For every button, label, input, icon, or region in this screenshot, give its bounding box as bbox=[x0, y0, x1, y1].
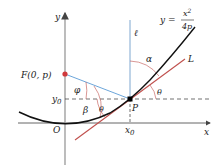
svg-text:y =: y = bbox=[159, 15, 176, 25]
phi-label: φ bbox=[74, 85, 81, 95]
theta-right-label: θ bbox=[157, 88, 162, 97]
parabola-equation: y = x2 4p bbox=[159, 7, 194, 31]
alpha-arc bbox=[130, 61, 159, 76]
phi-arc bbox=[86, 82, 87, 99]
focus-point bbox=[62, 71, 67, 76]
beta-label: β bbox=[82, 105, 88, 115]
origin-label: O bbox=[53, 125, 61, 135]
x0-label: x0 bbox=[125, 125, 135, 137]
svg-text:x2: x2 bbox=[183, 7, 192, 18]
svg-text:4p: 4p bbox=[181, 22, 192, 31]
focus-label: F(0, p) bbox=[20, 70, 52, 80]
ell-label: ℓ bbox=[134, 28, 138, 38]
parabola-diagram: y x O F(0, p) P y0 x0 ℓ L α θ φ β θ y = … bbox=[0, 0, 216, 168]
y-axis-label: y bbox=[54, 12, 61, 22]
point-P-label: P bbox=[131, 103, 139, 113]
alpha-label: α bbox=[146, 54, 152, 64]
x-axis-label: x bbox=[204, 127, 209, 137]
y0-label: y0 bbox=[51, 94, 62, 106]
tangent-point-P bbox=[128, 97, 133, 102]
L-label: L bbox=[187, 54, 194, 64]
theta-left-label: θ bbox=[99, 105, 104, 114]
theta-right-arc bbox=[150, 85, 156, 99]
